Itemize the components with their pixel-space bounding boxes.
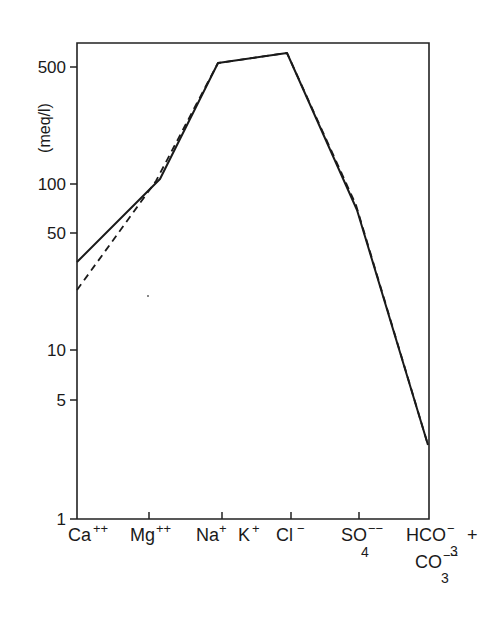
x-label-hco3: HCO− <box>406 521 455 545</box>
x-label-so4-subscript: 4 <box>361 544 369 560</box>
y-axis-title: (meq/l) <box>36 103 53 153</box>
x-label-co3: CO−− <box>415 548 458 572</box>
x-label-mg: Mg++ <box>130 521 171 545</box>
chart: 500 100 50 10 5 1 (meq/l) Ca++ Mg++ Na+ … <box>0 0 498 624</box>
x-label-plus: + <box>467 525 478 545</box>
y-label-100: 100 <box>38 175 66 194</box>
y-label-10: 10 <box>47 341 66 360</box>
y-label-5: 5 <box>57 391 66 410</box>
x-label-co3-subscript: 3 <box>441 570 449 586</box>
y-label-1: 1 <box>57 510 66 529</box>
x-label-na: Na+ <box>196 521 227 545</box>
x-label-cl: Cl− <box>276 521 305 545</box>
x-label-k: K+ <box>238 521 260 545</box>
y-label-50: 50 <box>47 224 66 243</box>
dust-speck <box>147 295 149 297</box>
x-label-ca: Ca++ <box>68 521 108 545</box>
x-label-so4: SO−− <box>341 521 383 545</box>
series-solid-line <box>77 53 428 445</box>
x-category-labels: Ca++ Mg++ Na+ K+ Cl− SO−− 4 HCO− 3 + CO−… <box>68 521 478 586</box>
x-ticks <box>149 512 359 519</box>
series-dashed-line <box>77 53 428 445</box>
y-ticks <box>70 67 77 519</box>
y-label-500: 500 <box>38 58 66 77</box>
plot-frame <box>77 43 429 519</box>
